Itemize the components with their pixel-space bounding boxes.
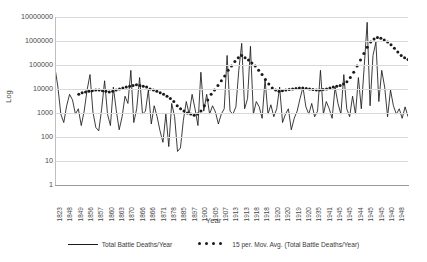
moving-average-marker (396, 50, 399, 53)
chart-legend: Total Battle Deaths/Year 15 per. Mov. Av… (0, 236, 427, 252)
x-axis-line (55, 185, 409, 186)
moving-average-marker (223, 74, 226, 77)
y-tick-label: 100000 (1, 61, 53, 68)
moving-average-marker (162, 93, 165, 96)
moving-average-marker (237, 56, 240, 59)
moving-average-marker (349, 76, 352, 79)
y-tick-label: 1 (1, 181, 53, 188)
moving-average-marker (366, 46, 369, 49)
moving-average-marker (345, 80, 348, 83)
dotted-line-swatch-icon (198, 242, 228, 246)
legend-item-moving-average: 15 per. Mov. Avg. (Total Battle Deaths/Y… (198, 241, 359, 248)
y-tick-label: 1000000 (1, 37, 53, 44)
x-axis-title: Year (0, 216, 427, 225)
moving-average-marker (77, 93, 80, 96)
moving-average-marker (155, 90, 158, 93)
gridline (55, 113, 408, 114)
y-tick-label: 10 (1, 157, 53, 164)
moving-average-marker (244, 56, 247, 59)
gridline (55, 89, 408, 90)
moving-average-marker (193, 114, 196, 117)
moving-average-marker (362, 52, 365, 55)
gridline (55, 161, 408, 162)
moving-average-marker (210, 93, 213, 96)
plot-area (55, 17, 408, 185)
moving-average-marker (335, 85, 338, 88)
gridline (55, 41, 408, 42)
moving-average-marker (216, 84, 219, 87)
moving-average-marker (128, 85, 131, 88)
moving-average-marker (111, 90, 114, 93)
moving-average-marker (81, 91, 84, 94)
battle-deaths-chart: Log 100000001000000100000100001000100101… (0, 0, 427, 262)
gridline (55, 17, 408, 18)
legend-label: 15 per. Mov. Avg. (Total Battle Deaths/Y… (232, 241, 359, 248)
moving-average-marker (390, 43, 393, 46)
moving-average-marker (176, 104, 179, 107)
moving-average-marker (264, 78, 267, 81)
y-axis-line (55, 17, 56, 186)
moving-average-marker (247, 59, 250, 62)
moving-average-marker (108, 91, 111, 94)
legend-item-total-battle-deaths: Total Battle Deaths/Year (68, 241, 173, 248)
moving-average-marker (104, 90, 107, 93)
moving-average-marker (407, 58, 409, 61)
moving-average-marker (342, 83, 345, 86)
moving-average-marker (278, 90, 281, 93)
moving-average-marker (257, 69, 260, 72)
moving-average-marker (240, 54, 243, 57)
moving-average-marker (261, 73, 264, 76)
y-tick-label: 10000000 (1, 13, 53, 20)
moving-average-marker (135, 83, 138, 86)
solid-line-swatch-icon (68, 244, 98, 245)
moving-average-marker (84, 91, 87, 94)
moving-average-marker (267, 83, 270, 86)
moving-average-marker (403, 56, 406, 59)
moving-average-marker (166, 95, 169, 98)
y-tick-label: 1000 (1, 109, 53, 116)
gridline (55, 65, 408, 66)
moving-average-marker (138, 84, 141, 87)
moving-average-marker (352, 71, 355, 74)
moving-average-marker (220, 79, 223, 82)
moving-average-marker (393, 47, 396, 50)
moving-average-marker (159, 91, 162, 94)
moving-average-marker (359, 59, 362, 62)
y-tick-label: 10000 (1, 85, 53, 92)
moving-average-marker (132, 84, 135, 87)
moving-average-marker (233, 60, 236, 63)
moving-average-marker (227, 69, 230, 72)
moving-average-marker (172, 100, 175, 103)
moving-average-marker (339, 84, 342, 87)
series-layer (55, 17, 408, 185)
moving-average-marker (376, 36, 379, 39)
moving-average-marker (179, 107, 182, 110)
moving-average-marker (203, 104, 206, 107)
moving-average-marker (142, 85, 145, 88)
moving-average-marker (379, 37, 382, 40)
moving-average-marker (87, 90, 90, 93)
moving-average-marker (206, 98, 209, 101)
moving-average-marker (169, 97, 172, 100)
moving-average-marker (400, 54, 403, 57)
gridline (55, 137, 408, 138)
y-tick-label: 100 (1, 133, 53, 140)
legend-label: Total Battle Deaths/Year (102, 241, 173, 248)
